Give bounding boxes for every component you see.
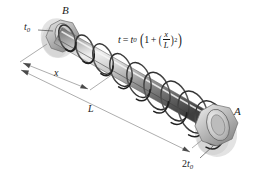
formula-lhs: t	[118, 34, 121, 45]
label-dimension-x: x	[54, 68, 58, 78]
label-end-a: A	[234, 106, 241, 117]
formula-one: 1	[144, 34, 149, 45]
label-thickness-t0: t0	[24, 22, 30, 34]
formula-equals: =	[123, 34, 129, 45]
label-thickness-2t0: 2t0	[182, 159, 193, 171]
label-t0-subscript: 0	[27, 26, 30, 33]
diagram-canvas	[0, 0, 257, 180]
formula-denominator: L	[163, 41, 170, 50]
thickness-formula: t = t0 ( 1 + ( x L ) 2 )	[118, 30, 183, 49]
formula-coefficient-subscript: 0	[133, 36, 136, 43]
label-dimension-l: L	[88, 104, 94, 114]
label-2t0-subscript: 0	[190, 163, 193, 170]
formula-fraction: x L	[163, 30, 170, 49]
formula-numerator: x	[163, 30, 169, 39]
formula-plus: +	[151, 34, 157, 45]
figure-container: B A t0 2t0 x L t = t0 ( 1 + ( x L ) 2 )	[0, 0, 257, 180]
label-end-b: B	[62, 5, 69, 16]
